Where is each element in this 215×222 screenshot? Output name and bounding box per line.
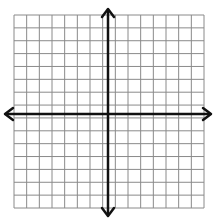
axes [5, 9, 211, 216]
coordinate-grid [0, 0, 215, 222]
